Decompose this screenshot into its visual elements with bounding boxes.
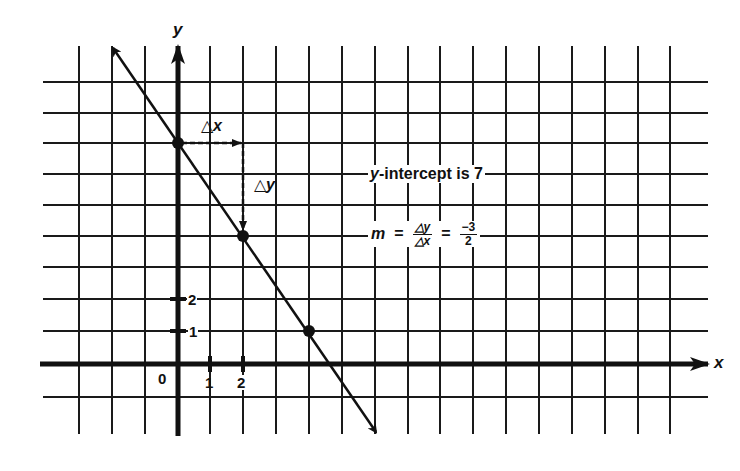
line-graph-figure: y x 0 1 2 1 2 △x △y y-intercept is 7 m =… [0,0,740,471]
point-0-7 [172,137,184,149]
y-tick-label-2: 2 [187,292,197,307]
delta-icon: △ [254,176,266,193]
y-axis-label: y [173,21,182,38]
y-tick-label-1: 1 [188,324,198,339]
intercept-annotation: y-intercept is 7 [368,165,485,183]
slope-variable: m [371,226,385,242]
x-axis-label: x [714,354,723,371]
point-2-4 [237,230,249,242]
origin-label: 0 [158,371,166,386]
equals-sign: = [441,226,450,242]
equals-sign: = [394,226,403,242]
delta-icon: △ [201,117,213,134]
axis-ticks [170,299,243,372]
delta-y-label: △y [254,177,275,193]
point-4-1 [303,325,315,337]
delta-x-label: △x [201,118,222,134]
x-tick-label-2: 2 [237,375,245,390]
slope-value-fraction: −3 2 [460,221,478,247]
slope-formula: m = △y △x = −3 2 [368,221,480,247]
x-tick-label-1: 1 [205,375,213,390]
delta-fraction: △y △x [413,221,433,247]
